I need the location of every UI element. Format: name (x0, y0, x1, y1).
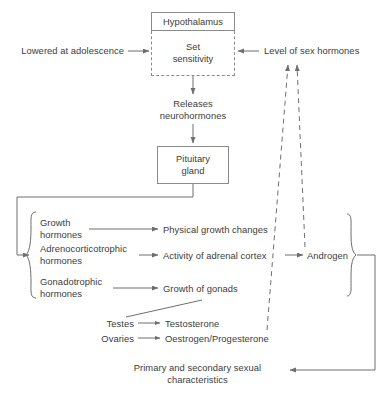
node-primary-secondary-characteristics: Primary and secondary sexual characteris… (110, 362, 285, 385)
node-hypothalamus-label: Hypothalamus (163, 16, 223, 28)
node-growth-of-gonads: Growth of gonads (163, 283, 273, 295)
node-androgen: Androgen (307, 250, 367, 262)
node-level-of-sex-hormones: Level of sex hormones (264, 45, 389, 57)
node-gonadotrophic-hormones: Gonadotrophic hormones (40, 276, 150, 299)
edge-androgen-feedback-to-sex-hormones (297, 65, 305, 247)
node-pituitary-gland: Pituitary gland (157, 146, 229, 184)
node-testosterone: Testosterone (165, 318, 285, 330)
endocrine-feedback-diagram: Hypothalamus Set sensitivity Lowered at … (0, 0, 391, 394)
node-hypothalamus: Hypothalamus (151, 12, 235, 31)
edge-bracket-to-primary-secondary (290, 255, 375, 370)
node-activity-of-adrenal-cortex: Activity of adrenal cortex (163, 250, 293, 262)
node-oestrogen-progesterone: Oestrogen/Progesterone (165, 333, 305, 345)
node-adrenocorticotrophic-hormones: Adrenocorticotrophic hormones (40, 243, 160, 266)
node-set-sensitivity: Set sensitivity (151, 31, 235, 76)
node-set-sensitivity-label: Set sensitivity (173, 41, 214, 64)
node-physical-growth-changes: Physical growth changes (163, 224, 293, 236)
node-lowered-at-adolescence: Lowered at adolescence (8, 45, 124, 57)
node-growth-hormones: Growth hormones (40, 217, 150, 240)
node-releases-neurohormones: Releases neurohormones (133, 98, 253, 121)
node-testes: Testes (76, 318, 134, 330)
node-ovaries: Ovaries (76, 333, 134, 345)
node-pituitary-gland-label: Pituitary gland (176, 153, 210, 176)
edge-gonads-to-testes (126, 300, 202, 317)
